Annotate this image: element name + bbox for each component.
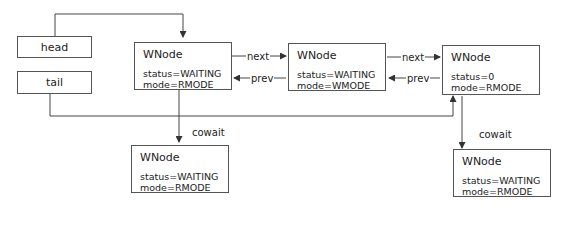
prev-label-2: prev	[406, 73, 430, 84]
node-mode: mode=RMODE	[462, 186, 533, 197]
cowait-label-1: cowait	[191, 127, 226, 138]
wnode-3[interactable]: WNode status=0 mode=RMODE	[442, 45, 540, 95]
node-mode: mode=RMODE	[140, 182, 211, 193]
wnode-cowait-2[interactable]: WNode status=WAITING mode=RMODE	[453, 149, 551, 197]
tail-label: tail	[46, 76, 63, 89]
node-status: status=WAITING	[462, 175, 540, 186]
node-title: WNode	[140, 151, 180, 164]
head-label: head	[41, 41, 68, 54]
node-status: status=WAITING	[140, 171, 218, 182]
node-title: WNode	[297, 49, 337, 62]
node-title: WNode	[462, 155, 502, 168]
node-title: WNode	[451, 51, 491, 64]
next-label-2: next	[401, 52, 425, 63]
wnode-2[interactable]: WNode status=WAITING mode=WMODE	[288, 43, 386, 91]
cowait-label-2: cowait	[478, 129, 513, 140]
wnode-1[interactable]: WNode status=WAITING mode=RMODE	[134, 42, 232, 90]
node-mode: mode=WMODE	[297, 80, 370, 91]
wnode-cowait-1[interactable]: WNode status=WAITING mode=RMODE	[131, 145, 229, 193]
head-pointer[interactable]: head	[17, 36, 92, 58]
node-status: status=WAITING	[143, 68, 221, 79]
node-status: status=0	[451, 71, 494, 82]
tail-pointer[interactable]: tail	[17, 71, 92, 94]
node-status: status=WAITING	[297, 69, 375, 80]
prev-label-1: prev	[250, 73, 274, 84]
next-label-1: next	[246, 51, 270, 62]
node-title: WNode	[143, 48, 183, 61]
node-mode: mode=RMODE	[143, 79, 214, 90]
node-mode: mode=RMODE	[451, 82, 522, 93]
